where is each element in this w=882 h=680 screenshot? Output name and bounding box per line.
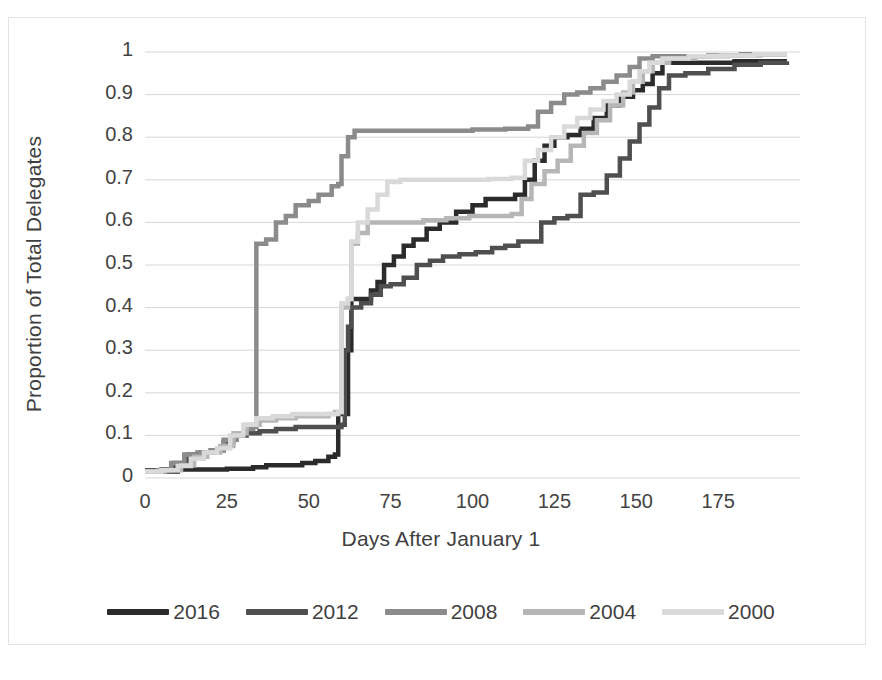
chart-legend: 20162012200820042000 [0,600,882,624]
y-tick-label: 0.7 [73,166,133,189]
x-tick-label: 0 [115,490,175,513]
y-tick-label: 0 [73,464,133,487]
y-tick-label: 0.1 [73,421,133,444]
x-tick-label: 75 [361,490,421,513]
y-tick-label: 1 [73,38,133,61]
legend-swatch-icon [662,609,724,615]
y-axis-title: Proportion of Total Delegates [22,109,46,439]
legend-item-2000[interactable]: 2000 [662,600,775,624]
legend-label: 2016 [173,600,220,624]
legend-swatch-icon [523,609,585,615]
legend-swatch-icon [107,609,169,615]
legend-item-2008[interactable]: 2008 [385,600,498,624]
legend-label: 2012 [312,600,359,624]
y-tick-label: 0.4 [73,294,133,317]
y-tick-label: 0.8 [73,123,133,146]
x-tick-label: 25 [197,490,257,513]
x-tick-label: 125 [524,490,584,513]
y-tick-label: 0.5 [73,251,133,274]
x-tick-label: 100 [443,490,503,513]
y-tick-label: 0.2 [73,379,133,402]
legend-item-2012[interactable]: 2012 [246,600,359,624]
legend-item-2016[interactable]: 2016 [107,600,220,624]
y-tick-label: 0.9 [73,81,133,104]
legend-swatch-icon [246,609,308,615]
legend-swatch-icon [385,609,447,615]
x-tick-label: 150 [606,490,666,513]
legend-item-2004[interactable]: 2004 [523,600,636,624]
y-tick-label: 0.6 [73,208,133,231]
legend-label: 2008 [451,600,498,624]
legend-label: 2004 [589,600,636,624]
x-axis-title: Days After January 1 [0,527,882,551]
y-tick-label: 0.3 [73,336,133,359]
x-tick-label: 175 [688,490,748,513]
legend-label: 2000 [728,600,775,624]
x-tick-label: 50 [279,490,339,513]
